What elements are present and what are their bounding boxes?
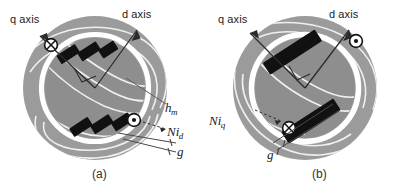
a-d-axis-label: d axis (122, 9, 151, 20)
b-q-axis-label: q axis (218, 14, 247, 25)
current-out-of-page-marker (128, 114, 141, 127)
figure-panel-a: q axis d axis hm Nid g (a) (0, 0, 206, 193)
a-mmf-symbol: Ni (167, 124, 179, 139)
figure-panel-b: q axis d axis Niq g (b) (205, 0, 411, 193)
a-mmf-subscript: d (179, 131, 184, 141)
b-mmf-symbol: Ni (209, 113, 221, 128)
a-airgap-label: g (177, 145, 184, 158)
b-d-axis-label: d axis (329, 9, 358, 20)
b-mmf-label: Niq (209, 114, 225, 130)
figure-a-drawing (0, 0, 206, 193)
b-caption: (b) (312, 168, 327, 180)
current-into-page-marker (45, 39, 58, 52)
b-airgap-label: g (267, 148, 274, 161)
figure-canvas: q axis d axis hm Nid g (a) (0, 0, 411, 193)
a-q-axis-label: q axis (10, 14, 39, 25)
figure-b-drawing (205, 0, 411, 193)
current-out-of-page-marker (350, 35, 363, 48)
a-mmf-label: Nid (167, 125, 183, 141)
a-magnet-height-label: hm (165, 101, 178, 117)
a-magnet-height-subscript: m (171, 107, 178, 117)
b-mmf-subscript: q (221, 120, 226, 130)
a-caption: (a) (92, 168, 107, 180)
